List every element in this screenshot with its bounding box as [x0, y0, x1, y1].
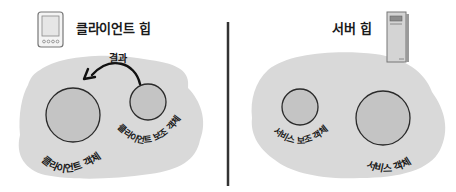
service-helper-object-circle — [282, 89, 318, 125]
client-helper-object-circle — [130, 84, 166, 120]
heap-diagram: 클라이언트 객체 클라이언트 보조 객체 서비스 보조 객체 서비스 객체 결과… — [0, 0, 456, 192]
client-object-circle — [46, 88, 100, 142]
service-object-circle — [356, 91, 410, 145]
server-heap-region — [252, 52, 446, 178]
server-heap-title: 서버 힙 — [332, 18, 371, 37]
result-arrow-label: 결과 — [109, 52, 128, 64]
client-heap-title: 클라이언트 힙 — [76, 18, 150, 37]
server-tower-icon — [387, 12, 409, 62]
pda-device-icon — [38, 12, 63, 47]
